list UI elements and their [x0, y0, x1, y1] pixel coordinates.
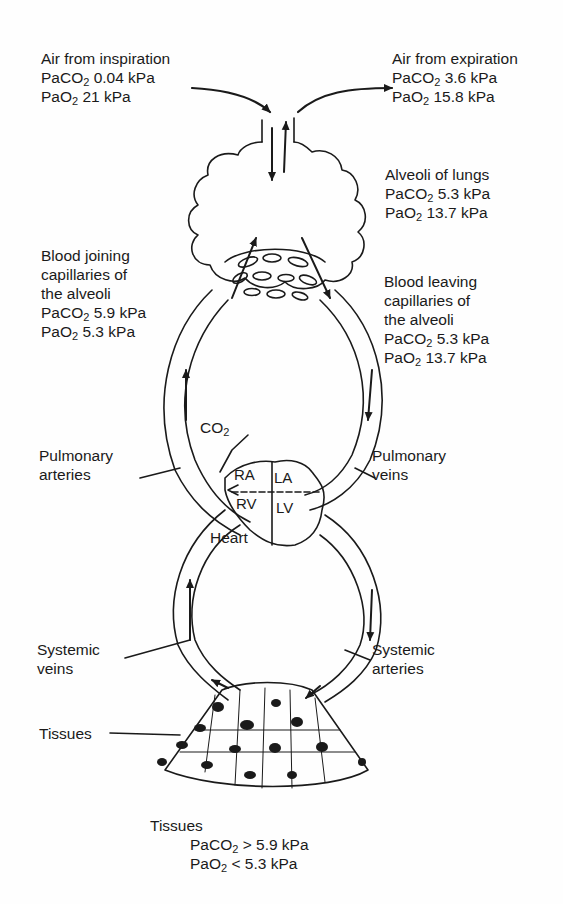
systemic-vein-tube: [192, 525, 240, 690]
pulmonary-arteries-label: Pulmonary arteries: [39, 446, 113, 484]
pulmonary-artery-tube: [164, 290, 240, 535]
inspiration-arrow: [192, 88, 270, 112]
air-out-arrow: [284, 122, 286, 172]
alveoli-label: Alveoli of lungs PaCO2 5.3 kPa PaO2 13.7…: [385, 165, 490, 222]
blood-leaving-label: Blood leaving capillaries of the alveoli…: [384, 272, 489, 367]
left-ventricle-label: LV: [276, 500, 293, 516]
systemic-veins-label: Systemic veins: [37, 640, 100, 678]
blood-joining-label: Blood joining capillaries of the alveoli…: [41, 246, 146, 341]
alveoli-cloud: [189, 142, 366, 289]
tissues-values-label: Tissues PaCO2 > 5.9 kPa PaO2 < 5.3 kPa: [150, 816, 309, 873]
pulmonary-veins-label: Pulmonary veins: [372, 446, 446, 484]
left-atrium-label: LA: [274, 470, 292, 486]
expiration-label: Air from expiration PaCO2 3.6 kPa PaO2 1…: [392, 49, 518, 106]
inspiration-label: Air from inspiration PaCO2 0.04 kPa PaO2…: [41, 49, 170, 106]
right-atrium-label: RA: [234, 467, 255, 483]
right-ventricle-label: RV: [236, 496, 257, 512]
tissues-label: Tissues: [39, 724, 92, 743]
systemic-arteries-label: Systemic arteries: [372, 640, 435, 678]
heart-label: Heart: [210, 528, 248, 547]
tissues-block: [165, 683, 368, 787]
co2-label: CO2: [200, 418, 229, 437]
expiration-arrow: [298, 88, 392, 112]
systemic-artery-tube: [310, 535, 364, 695]
